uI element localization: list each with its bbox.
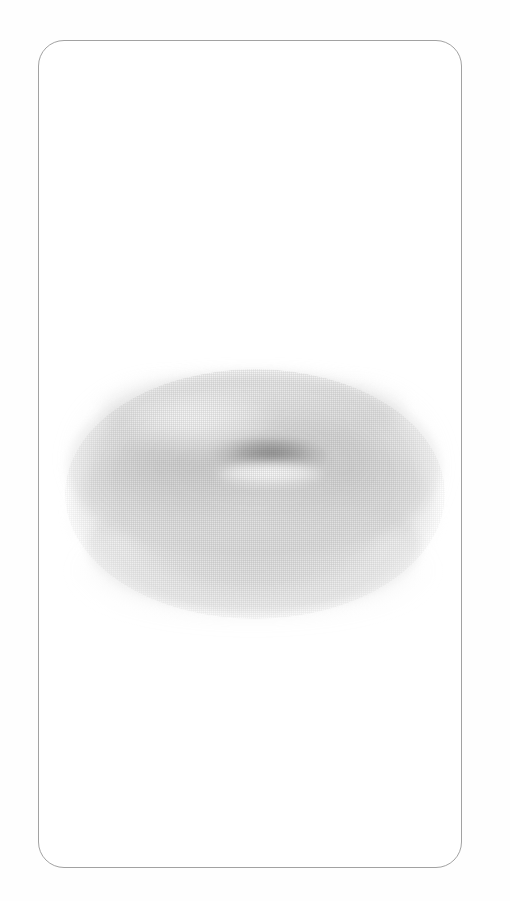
illustration-card <box>38 40 462 868</box>
halftone-texture-overlay <box>65 369 445 619</box>
donut-illustration <box>59 363 449 633</box>
page-canvas <box>0 0 510 901</box>
